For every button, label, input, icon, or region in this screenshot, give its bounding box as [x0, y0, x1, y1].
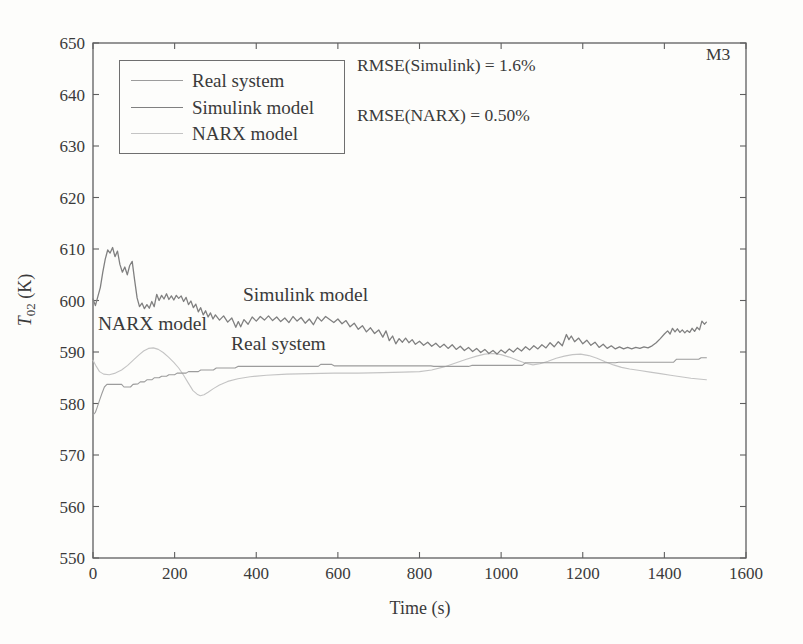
inplot-label-narx: NARX model: [98, 313, 207, 335]
rmse-simulink-annotation: RMSE(Simulink) = 1.6%: [357, 55, 536, 76]
x-tick-label-400: 400: [244, 564, 270, 583]
y-tick-label-620: 620: [60, 189, 86, 208]
y-tick-label-580: 580: [60, 395, 86, 414]
y-axis-unit: (K): [15, 274, 35, 304]
inplot-label-real: Real system: [231, 333, 326, 355]
x-tick-label-600: 600: [325, 564, 351, 583]
figure-id-label: M3: [706, 44, 730, 65]
y-axis-title: T02 (K): [15, 274, 40, 327]
series-line-real-system: [93, 358, 706, 415]
y-tick-label-590: 590: [60, 343, 86, 362]
y-tick-label-630: 630: [60, 137, 86, 156]
legend-entry-simulink-model: Simulink model: [120, 98, 344, 117]
rmse-narx-annotation: RMSE(NARX) = 0.50%: [357, 105, 530, 126]
y-tick-label-650: 650: [60, 34, 86, 53]
y-tick-label-610: 610: [60, 240, 86, 259]
y-tick-label-570: 570: [60, 446, 86, 465]
y-tick-label-560: 560: [60, 498, 86, 517]
x-tick-label-1000: 1000: [484, 564, 518, 583]
legend: Real system Simulink model NARX model: [119, 60, 345, 154]
series-line-simulink-model: [93, 248, 706, 355]
series-line-narx-model: [93, 348, 706, 396]
y-tick-label-640: 640: [60, 86, 86, 105]
x-tick-label-0: 0: [89, 564, 98, 583]
legend-label-narx-model: NARX model: [192, 124, 298, 143]
inplot-label-simulink: Simulink model: [243, 284, 368, 306]
y-axis-subscript: 02: [23, 303, 38, 316]
legend-line-real-system-icon: [131, 80, 183, 81]
legend-label-real-system: Real system: [192, 71, 284, 90]
x-tick-label-1600: 1600: [729, 564, 763, 583]
y-axis-variable: T: [15, 316, 35, 326]
legend-entry-narx-model: NARX model: [120, 124, 344, 143]
y-tick-label-600: 600: [60, 292, 86, 311]
x-tick-label-800: 800: [407, 564, 433, 583]
legend-entry-real-system: Real system: [120, 71, 344, 90]
legend-line-narx-model-icon: [131, 133, 183, 134]
y-tick-label-550: 550: [60, 549, 86, 568]
legend-line-simulink-model-icon: [131, 107, 183, 108]
chart-figure: 0200400600800100012001400160055056057058…: [0, 0, 803, 644]
legend-label-simulink-model: Simulink model: [192, 98, 314, 117]
x-tick-label-1200: 1200: [566, 564, 600, 583]
x-tick-label-1400: 1400: [647, 564, 681, 583]
x-tick-label-200: 200: [162, 564, 188, 583]
x-axis-title: Time (s): [390, 598, 451, 619]
